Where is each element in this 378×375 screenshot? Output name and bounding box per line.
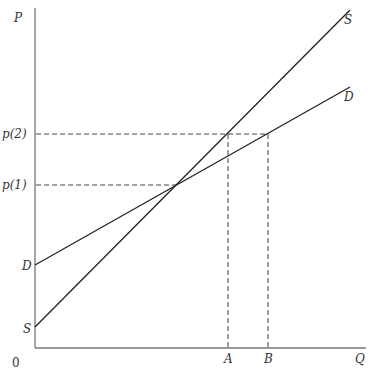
- supply-intercept-label: S: [23, 322, 31, 336]
- B-label: B: [263, 352, 273, 366]
- demand-intercept-label: D: [21, 259, 32, 273]
- A-label: A: [223, 352, 233, 366]
- p2-label: p(2): [2, 127, 27, 141]
- supply-curve-label: S: [344, 13, 352, 27]
- supply-demand-diagram: P Q 0 p(2) p(1) A B S D D S: [0, 0, 378, 375]
- demand-curve: [35, 87, 350, 265]
- price-axis-label: P: [13, 11, 23, 25]
- supply-curve: [35, 10, 350, 327]
- demand-curve-label: D: [343, 90, 354, 104]
- p2-to-B-guide: [36, 134, 268, 347]
- origin-label: 0: [12, 356, 20, 370]
- quantity-axis-label: Q: [355, 352, 365, 366]
- p1-label: p(1): [2, 178, 27, 192]
